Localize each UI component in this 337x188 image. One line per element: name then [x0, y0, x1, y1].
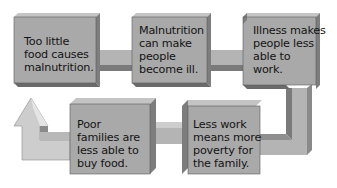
box-4-line-4: the family. — [193, 157, 261, 170]
box-1-text: Too little food causes malnutrition. — [24, 35, 94, 74]
box-1-line-3: malnutrition. — [24, 61, 94, 74]
connector-2-3 — [207, 50, 243, 71]
box-5-line-2: families are — [77, 131, 140, 144]
return-arrow-5-1 — [14, 98, 70, 160]
poverty-malnutrition-cycle-diagram: Too little food causes malnutrition. Mal… — [0, 0, 337, 188]
box-3-line-4: work. — [253, 63, 326, 76]
box-2-line-1: Malnutrition — [139, 24, 204, 37]
box-3-line-1: Illness makes — [253, 24, 326, 37]
box-2-line-2: can make — [139, 37, 204, 50]
box-5-line-3: less able to — [77, 144, 140, 157]
box-5-line-4: buy food. — [77, 157, 140, 170]
box-2-line-4: become ill. — [139, 63, 204, 76]
connector-1-2 — [96, 50, 132, 71]
box-4-line-1: Less work — [193, 118, 261, 131]
box-5-text: Poor families are less able to buy food. — [77, 118, 140, 170]
connector-3-4 — [260, 84, 312, 155]
box-3-line-3: able to — [253, 50, 326, 63]
box-2-line-3: people — [139, 50, 204, 63]
box-4-text: Less work means more poverty for the fam… — [193, 118, 261, 170]
box-4-line-2: means more — [193, 131, 261, 144]
box-1-line-1: Too little — [24, 35, 94, 48]
box-3-line-2: people less — [253, 37, 326, 50]
box-4-line-3: poverty for — [193, 144, 261, 157]
box-2-text: Malnutrition can make people become ill. — [139, 24, 204, 76]
box-3-text: Illness makes people less able to work. — [253, 24, 326, 76]
box-1-line-2: food causes — [24, 48, 94, 61]
box-5-line-1: Poor — [77, 118, 140, 131]
